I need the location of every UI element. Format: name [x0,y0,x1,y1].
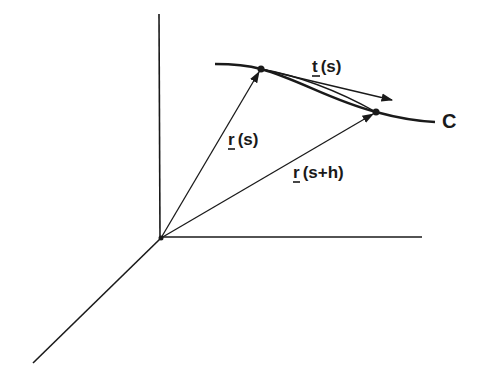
diagram-canvas: t(s) r(s) r(s+h) C [0,0,481,378]
position-s-arg: (s) [238,130,259,149]
svg-text:r(s+h): r(s+h) [293,163,344,182]
svg-text:r(s): r(s) [228,130,258,149]
position-vector-r-s [161,72,259,238]
tangent-vec-letter: t [312,57,318,76]
space-curve-diagram: t(s) r(s) r(s+h) C [0,0,481,378]
z-axis [159,14,160,238]
tangent-arg: (s) [321,57,342,76]
position-sh-vec-letter: r [293,163,300,182]
position-sh-arg: (s+h) [303,163,344,182]
point-r-s [258,66,265,73]
label-curve-c: C [442,110,456,132]
point-r-s-plus-h [373,109,380,116]
x-axis [33,238,161,363]
label-tangent: t(s) [312,57,341,76]
position-s-vec-letter: r [228,130,235,149]
svg-text:t(s): t(s) [312,57,341,76]
label-position-s-plus-h: r(s+h) [293,163,344,182]
coordinate-axes [33,14,422,363]
label-position-s: r(s) [228,130,258,149]
